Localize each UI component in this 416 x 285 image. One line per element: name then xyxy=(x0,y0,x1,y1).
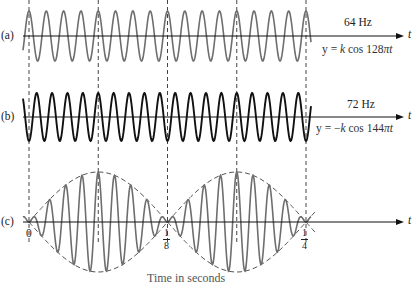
tick-label-one-eighth: 1 8 xyxy=(163,228,170,251)
eq-a-t: t xyxy=(389,43,392,55)
eighth-numerator: 1 xyxy=(163,228,170,240)
panel-c-label: (c) xyxy=(1,216,14,228)
eq-b-lhs: y = − xyxy=(316,122,340,134)
panel-a-label: (a) xyxy=(1,30,14,42)
eighth-denominator: 8 xyxy=(163,240,170,251)
eq-a-lhs: y = xyxy=(322,43,340,55)
eq-a-fn: cos 128 xyxy=(345,43,383,55)
quarter-denominator: 4 xyxy=(301,240,308,251)
panel-b-frequency: 72 Hz xyxy=(347,99,375,111)
axis-arrow-icon-a xyxy=(396,33,404,39)
time-caption: Time in seconds xyxy=(147,272,225,284)
axis-c-t-label: t xyxy=(408,215,411,227)
axis-b-t-label: t xyxy=(408,110,411,122)
dashed-guides xyxy=(29,0,306,244)
eq-b-t: t xyxy=(390,122,393,134)
panel-b-equation: y = −k cos 144πt xyxy=(316,123,393,135)
axis-a-t-label: t xyxy=(408,29,411,41)
axis-arrow-icon-c xyxy=(396,219,404,225)
axis-arrow-icon-b xyxy=(396,114,404,120)
panel-a-equation: y = k cos 128πt xyxy=(322,44,392,56)
tick-label-zero: 0 xyxy=(26,228,32,240)
panel-b-label: (b) xyxy=(1,111,14,123)
eq-b-fn: cos 144 xyxy=(346,122,384,134)
panel-a-frequency: 64 Hz xyxy=(344,17,372,29)
tick-label-one-quarter: 1 4 xyxy=(301,228,308,251)
quarter-numerator: 1 xyxy=(301,228,308,240)
